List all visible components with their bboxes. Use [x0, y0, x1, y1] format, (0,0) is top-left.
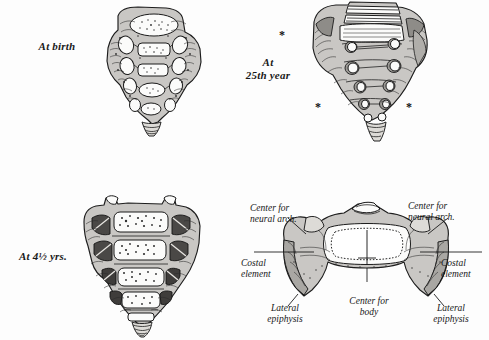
figure-label-at-4-and-half-yrs: At 4½ yrs.: [6, 250, 80, 263]
at-birth-drawing: [80, 2, 220, 142]
annotation-lateral-epiphysis-right: Lateral epiphysis: [419, 303, 483, 326]
at-4-and-half-yrs-drawing: [66, 188, 216, 338]
anatomical-plate: At birth: [0, 0, 489, 340]
annotation-center-neural-arch-right: Center for neural arch.: [408, 201, 486, 224]
at-25th-year-drawing: [288, 0, 448, 150]
marker-asterisk-lower-left: *: [315, 101, 321, 113]
annotation-costal-element-left: Costal element: [241, 258, 287, 281]
figure-at-birth: [80, 2, 220, 142]
figure-at-25th-year: [288, 0, 448, 150]
figure-label-at-birth: At birth: [26, 40, 88, 53]
annotation-center-for-body: Center for body: [337, 296, 401, 319]
figure-label-at-25th-year: At 25th year: [240, 56, 296, 81]
annotation-lateral-epiphysis-left: Lateral epiphysis: [254, 303, 316, 326]
marker-asterisk-upper-left: *: [279, 29, 285, 41]
figure-at-4-and-half-yrs: [66, 188, 216, 338]
annotation-costal-element-right: Costal element: [441, 258, 489, 281]
marker-asterisk-lower-right: *: [406, 101, 412, 113]
annotation-center-neural-arch-left: Center for neural arch.: [250, 203, 324, 226]
